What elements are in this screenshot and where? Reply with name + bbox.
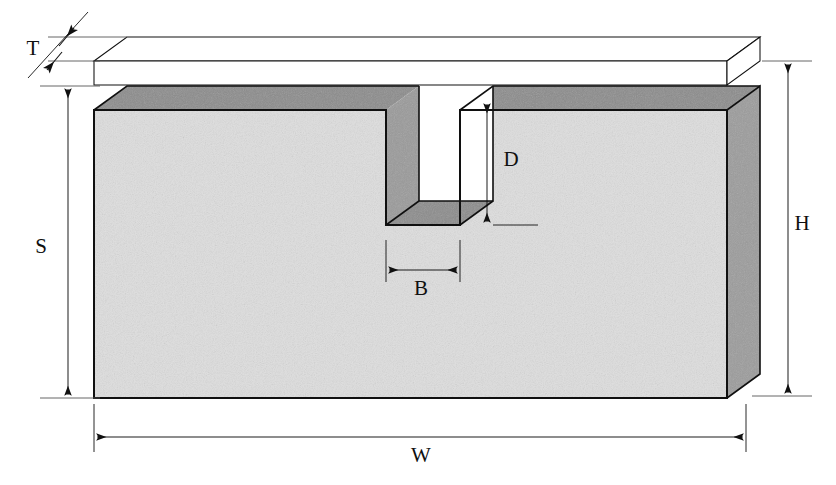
dim-T-label: T <box>27 36 40 60</box>
block-group <box>94 86 760 398</box>
dim-W-label: W <box>411 443 431 467</box>
plate-front-face <box>94 61 727 85</box>
block-top-face-right <box>460 86 760 110</box>
dim-D-label: D <box>503 147 518 171</box>
plate-top-face <box>94 37 760 61</box>
figure-container: T S D B H <box>0 0 836 485</box>
dim-S-label: S <box>35 234 47 258</box>
slotted-block-drawing: T S D B H <box>0 0 836 485</box>
top-plate-group <box>94 37 760 85</box>
dim-H-label: H <box>794 211 809 235</box>
dim-B-label: B <box>414 276 428 300</box>
block-right-side-face <box>727 86 760 398</box>
slot-opening <box>419 86 493 201</box>
block-top-face-left <box>94 86 419 110</box>
